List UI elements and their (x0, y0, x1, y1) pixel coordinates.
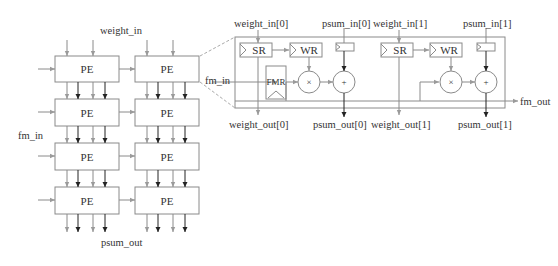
wr-register-label: WR (296, 44, 322, 56)
pe-label: PE (55, 151, 119, 163)
sr-register-label: SR (387, 44, 413, 56)
fm-out-label: fm_out (520, 96, 550, 108)
zoom-lines (200, 37, 235, 108)
sr-register-label: SR (246, 44, 272, 56)
diagram-lines (0, 0, 558, 266)
pe-label: PE (55, 63, 119, 75)
pe-label: PE (135, 195, 199, 207)
weight-out-1-label: weight_out[1] (371, 119, 431, 131)
psum-in-1-label: psum_in[1] (463, 18, 511, 30)
pe-label: PE (55, 195, 119, 207)
detail-fm-in-label: fm_in (205, 75, 230, 87)
fmr-register-label: FMR (264, 76, 288, 88)
psum-out-0-label: psum_out[0] (313, 119, 367, 131)
psum-in-0-label: psum_in[0] (322, 18, 370, 30)
pe-label: PE (135, 63, 199, 75)
multiplier-icon: × (299, 76, 319, 88)
wr-register-label: WR (436, 44, 462, 56)
pe-array-diagram: weight_in fm_in psum_out PE PE PE PE PE … (0, 0, 558, 266)
weight-in-label: weight_in (100, 25, 142, 37)
weight-in-0-label: weight_in[0] (234, 18, 288, 30)
pe-label: PE (135, 107, 199, 119)
fm-in-label: fm_in (18, 130, 43, 142)
multiplier-icon: × (441, 76, 461, 88)
pe-detail (212, 28, 518, 115)
psum-out-label: psum_out (101, 237, 142, 249)
pe-label: PE (55, 107, 119, 119)
psum-out-1-label: psum_out[1] (458, 119, 512, 131)
weight-out-0-label: weight_out[0] (229, 119, 289, 131)
adder-icon: + (476, 76, 496, 88)
pe-label: PE (135, 151, 199, 163)
adder-icon: + (334, 76, 354, 88)
weight-in-1-label: weight_in[1] (373, 18, 427, 30)
